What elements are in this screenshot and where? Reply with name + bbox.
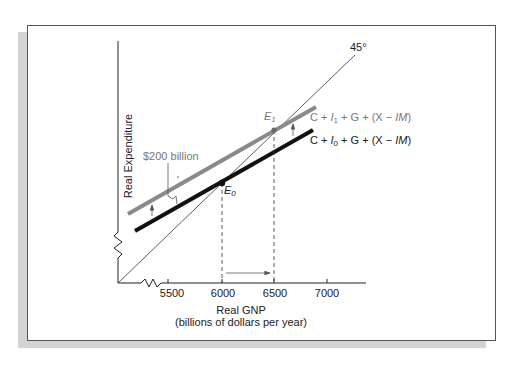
x-tick-label-6000: 6000 bbox=[211, 287, 235, 299]
x-axis bbox=[118, 279, 366, 287]
curve-label-old: C + I0 + G + (X − IM) bbox=[310, 134, 411, 148]
shift-bracket bbox=[168, 163, 177, 204]
shift-amount-label: $200 billion bbox=[143, 150, 199, 162]
x-axis-label: Real GNP bbox=[216, 304, 266, 316]
45-degree-label: 45° bbox=[350, 41, 367, 53]
expenditure-line-old bbox=[135, 130, 313, 231]
equilibrium-label-e1: E1 bbox=[264, 110, 276, 124]
equilibrium-label-e0: E0 bbox=[224, 184, 236, 198]
x-tick-label-6500: 6500 bbox=[263, 287, 287, 299]
45-degree-line bbox=[118, 55, 355, 283]
bracket-dot bbox=[177, 176, 179, 178]
x-axis-sublabel: (billions of dollars per year) bbox=[175, 316, 307, 328]
x-tick-label-7000: 7000 bbox=[315, 287, 339, 299]
y-axis-label: Real Expenditure bbox=[122, 96, 134, 216]
curve-label-new: C + I1 + G + (X − IM) bbox=[310, 111, 411, 125]
y-axis bbox=[114, 41, 122, 283]
x-tick-label-5500: 5500 bbox=[160, 287, 184, 299]
equilibrium-point-e1 bbox=[271, 127, 276, 132]
